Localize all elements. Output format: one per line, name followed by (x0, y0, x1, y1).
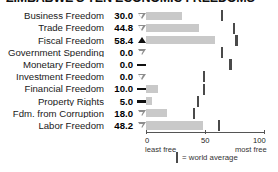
score-bar (146, 97, 152, 105)
freedom-row-label: Government Spending (0, 48, 104, 58)
freedom-row-plot (146, 10, 265, 22)
freedom-row-plot (146, 22, 265, 34)
score-bar (146, 36, 215, 44)
axis-caption-most-free: most free (235, 145, 267, 154)
freedom-row-plot (146, 34, 265, 46)
world-average-marker (233, 23, 235, 34)
freedom-row-value: 0.0 (108, 48, 133, 58)
axis-tick-50 (205, 130, 206, 134)
freedom-row-value: 5.0 (108, 97, 133, 107)
freedom-row: Business Freedom30.0 (0, 10, 278, 22)
legend-label: = world average (182, 153, 238, 162)
score-bar (146, 109, 167, 117)
world-average-marker (235, 35, 237, 46)
freedom-row-label: Fiscal Freedom (0, 36, 104, 46)
freedom-row-label: Trade Freedom (0, 23, 104, 33)
freedom-row-label: Labor Freedom (0, 121, 104, 131)
axis-tick-label-50: 50 (201, 136, 209, 145)
world-average-marker (203, 71, 205, 82)
score-bar (146, 24, 199, 32)
world-average-mark-icon (176, 152, 178, 163)
freedom-row-plot (146, 95, 265, 107)
freedom-row: Labor Freedom48.2 (0, 120, 278, 132)
freedom-row-value: 44.8 (108, 23, 133, 33)
freedom-row-label: Monetary Freedom (0, 60, 104, 70)
score-bar (146, 12, 182, 20)
freedom-row-value: 48.2 (108, 121, 133, 131)
freedom-row-value: 30.0 (108, 11, 133, 21)
axis-tick-0 (146, 130, 147, 134)
world-average-marker (221, 47, 223, 58)
freedom-row-label: Investment Freedom (0, 72, 104, 82)
world-average-marker (229, 59, 231, 70)
axis-caption-least-free: least free (145, 145, 176, 154)
freedom-row-label: Business Freedom (0, 11, 104, 21)
freedom-row: Monetary Freedom0.0 (0, 59, 278, 71)
freedom-row-plot (146, 47, 265, 59)
world-average-marker (218, 120, 220, 131)
world-average-marker (193, 108, 195, 119)
axis-tick-100 (264, 130, 265, 134)
axis-tick-label-100: 100 (253, 136, 266, 145)
freedom-row-value: 0.0 (108, 60, 133, 70)
world-average-marker (197, 96, 199, 107)
page-title: ZIMBABWE'S TEN ECONOMIC FREEDOMS (6, 0, 272, 5)
world-average-marker (221, 10, 223, 21)
legend: = world average (176, 152, 238, 163)
freedom-row-plot (146, 59, 265, 71)
economic-freedoms-chart: ZIMBABWE'S TEN ECONOMIC FREEDOMS Busines… (0, 0, 278, 172)
freedom-row-label: Fdm. from Corruption (0, 109, 104, 119)
x-axis: 0 50 100 least free most free (146, 132, 265, 133)
score-bar (146, 85, 158, 93)
freedom-row-value: 10.0 (108, 84, 133, 94)
freedom-row: Financial Freedom10.0 (0, 83, 278, 95)
freedom-row: Fdm. from Corruption18.0 (0, 108, 278, 120)
score-bar (146, 121, 203, 129)
freedom-row: Investment Freedom0.0 (0, 71, 278, 83)
freedom-row-plot (146, 83, 265, 95)
freedom-row: Trade Freedom44.8 (0, 22, 278, 34)
freedom-row: Fiscal Freedom58.4 (0, 34, 278, 46)
freedom-row-label: Property Rights (0, 97, 104, 107)
freedom-row-value: 18.0 (108, 109, 133, 119)
freedom-row: Property Rights5.0 (0, 95, 278, 107)
axis-tick-label-0: 0 (145, 136, 149, 145)
freedom-row-label: Financial Freedom (0, 84, 104, 94)
freedom-row-value: 58.4 (108, 36, 133, 46)
freedom-row-value: 0.0 (108, 72, 133, 82)
freedom-row-plot (146, 108, 265, 120)
freedom-row: Government Spending0.0 (0, 47, 278, 59)
world-average-marker (203, 84, 205, 95)
freedom-row-plot (146, 71, 265, 83)
freedom-rows: Business Freedom30.0Trade Freedom44.8Fis… (0, 10, 278, 132)
